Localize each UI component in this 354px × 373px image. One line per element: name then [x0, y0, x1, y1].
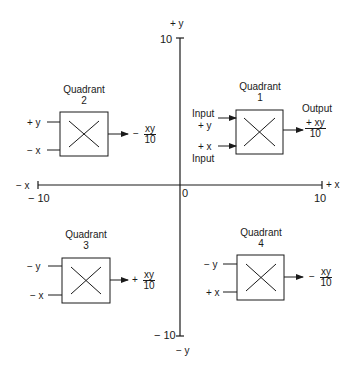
quadrant-4-input-bottom: + x [206, 287, 220, 298]
y-axis-negative-label: − y [176, 345, 190, 356]
quadrant-3-multiplier [48, 258, 128, 303]
quadrant-2-multiplier [47, 112, 128, 156]
quadrant-3-input-bottom: − x [30, 290, 44, 301]
quadrant-1-output-caption: Output [302, 103, 332, 114]
quadrant-4-input-top: − y [204, 259, 218, 270]
quadrant-4-title: Quadrant 4 [237, 227, 285, 249]
diagram-canvas [0, 0, 354, 373]
quadrant-2-input-bottom: − x [27, 145, 41, 156]
quadrant-4-output-sign: − [309, 271, 315, 282]
x-axis-negative-label: − x [16, 180, 30, 191]
quadrant-2-input-top: + y [27, 117, 41, 128]
quadrant-3-output-sign: + [132, 274, 138, 285]
x-axis-min-tick: − 10 [28, 193, 50, 204]
quadrant-3-title: Quadrant 3 [62, 229, 110, 251]
y-axis-max-tick: 10 [160, 34, 172, 45]
quadrant-1-title: Quadrant 1 [236, 81, 284, 103]
x-axis-max-tick: 10 [314, 193, 326, 204]
quadrant-4-multiplier [223, 255, 303, 300]
quadrant-1-input-bottom-caption: Input [192, 153, 214, 164]
origin-label: 0 [182, 188, 188, 199]
y-axis-positive-label: + y [170, 18, 184, 29]
quadrant-2-title: Quadrant 2 [60, 84, 108, 106]
quadrant-1-input-bottom: + x [198, 141, 212, 152]
quadrant-1-input-top: + y [198, 120, 212, 131]
quadrant-2-output-sign: − [133, 128, 139, 139]
quadrant-1-multiplier [218, 110, 303, 154]
y-axis-min-tick: − 10 [154, 330, 176, 341]
x-axis-positive-label: + x [326, 179, 340, 190]
quadrant-2-output: xy 10 [144, 124, 156, 145]
quadrant-1-output: + xy 10 [305, 118, 326, 139]
quadrant-3-input-top: − y [27, 261, 41, 272]
quadrant-1-input-top-caption: Input [192, 108, 214, 119]
quadrant-4-output: xy 10 [320, 267, 332, 288]
quadrant-3-output: xy 10 [143, 270, 155, 291]
